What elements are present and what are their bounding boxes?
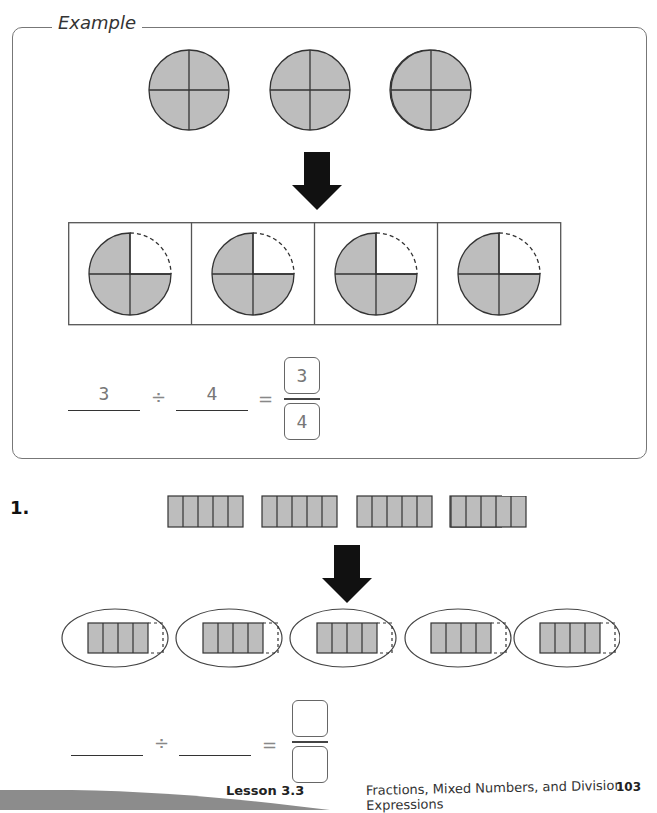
example-dividend: 3 bbox=[68, 383, 140, 404]
example-groups bbox=[68, 222, 562, 326]
problem-1-numerator-box[interactable] bbox=[292, 700, 328, 737]
equals-symbol: = bbox=[262, 734, 277, 755]
divide-symbol: ÷ bbox=[154, 732, 169, 753]
problem-1-divisor-line[interactable] bbox=[179, 755, 251, 756]
whole-circle-icon bbox=[149, 50, 229, 130]
equals-symbol: = bbox=[258, 388, 273, 409]
group-oval bbox=[62, 609, 168, 667]
problem-1-divisor[interactable] bbox=[179, 730, 251, 750]
lesson-label: Lesson 3.3 bbox=[226, 783, 304, 798]
question-number: 1. bbox=[10, 497, 29, 518]
example-denominator-box: 4 bbox=[284, 403, 320, 440]
example-denominator: 4 bbox=[297, 411, 308, 432]
fraction-bar bbox=[292, 741, 328, 743]
example-divisor-line bbox=[176, 410, 248, 411]
example-divisor: 4 bbox=[176, 383, 248, 404]
lesson-title: Fractions, Mixed Numbers, and Division E… bbox=[366, 777, 657, 813]
problem-1-dividend[interactable] bbox=[71, 730, 143, 750]
whole-circle-3-icon bbox=[390, 50, 472, 132]
example-title: Example bbox=[52, 12, 142, 33]
problem-1-dividend-line[interactable] bbox=[71, 755, 143, 756]
whole-circle-icon bbox=[270, 50, 350, 130]
problem-1-groups bbox=[60, 605, 620, 671]
down-arrow-icon bbox=[322, 545, 372, 605]
divide-symbol: ÷ bbox=[151, 386, 166, 407]
down-arrow-icon bbox=[292, 152, 342, 212]
example-numerator-box: 3 bbox=[284, 357, 320, 394]
example-dividend-line bbox=[68, 410, 140, 411]
fraction-bar bbox=[284, 398, 320, 400]
problem-1-denominator-box[interactable] bbox=[292, 746, 328, 783]
bar-4-icon bbox=[450, 496, 530, 530]
example-numerator: 3 bbox=[297, 365, 308, 386]
page-number: 103 bbox=[616, 780, 641, 794]
